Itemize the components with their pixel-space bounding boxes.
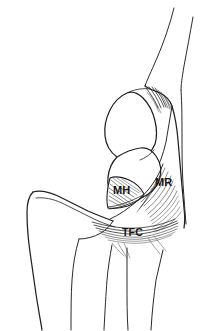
label-mh: MH: [113, 184, 131, 196]
label-tfc: TFC: [122, 226, 143, 238]
anatomical-line-drawing: MH MR TFC: [0, 0, 202, 331]
figure-canvas: MH MR TFC: [0, 0, 202, 331]
label-mr: MR: [155, 176, 173, 188]
